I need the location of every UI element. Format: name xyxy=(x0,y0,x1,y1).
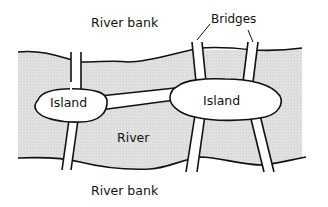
bridges-leader-left xyxy=(197,24,210,40)
bridges-label: Bridges xyxy=(211,13,256,25)
bridges-leader-right xyxy=(248,30,253,42)
bottom-bank-label: River bank xyxy=(91,185,158,198)
top-bank-label: River bank xyxy=(91,17,158,30)
seven-bridges-diagram: River bank Bridges Island Island River R… xyxy=(0,0,328,207)
river-label: River xyxy=(117,132,149,145)
island-right-label: Island xyxy=(203,95,240,108)
island-left-label: Island xyxy=(50,97,87,110)
